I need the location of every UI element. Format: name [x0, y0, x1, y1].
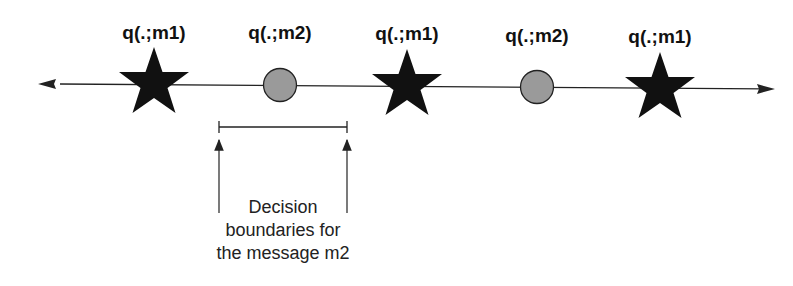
- circle-icon: [264, 69, 297, 102]
- point-label: q(.;m2): [505, 25, 568, 47]
- star-icon: [119, 47, 189, 113]
- caption-line: the message m2: [216, 242, 349, 265]
- decision-boundary-caption: Decision boundaries for the message m2: [216, 196, 349, 265]
- circle-icon: [521, 71, 554, 104]
- axis-right-arrow: [757, 84, 775, 94]
- point-label: q(.;m1): [628, 26, 691, 48]
- point-label: q(.;m1): [375, 23, 438, 45]
- star-icon: [625, 52, 695, 118]
- point-label: q(.;m2): [248, 22, 311, 44]
- caption-line: Decision: [216, 196, 349, 219]
- caption-line: boundaries for: [216, 219, 349, 242]
- star-icon: [372, 49, 442, 115]
- axis-left-arrow: [38, 79, 56, 89]
- point-label: q(.;m1): [122, 22, 185, 44]
